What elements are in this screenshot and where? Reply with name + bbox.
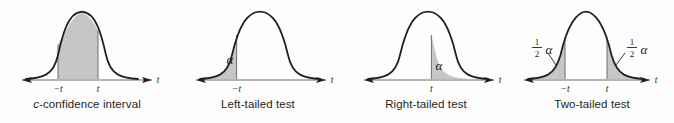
axis-label-t: t xyxy=(157,75,160,85)
panel-left-tailed-test: α −t t Left-tailed test xyxy=(174,0,342,123)
t-distribution-figure: −t t t c-confidence interval xyxy=(0,0,674,123)
area-label-alpha: α xyxy=(436,58,444,73)
half-alpha-symbol-left: α xyxy=(546,42,554,57)
area-label-alpha: α xyxy=(227,52,235,67)
panel-caption-left-tailed-test: Left-tailed test xyxy=(174,98,342,110)
half-alpha-numerator-left: 1 xyxy=(535,37,540,47)
caption-text: -confidence interval xyxy=(39,98,141,110)
panel-caption-two-tailed-test: Two-tailed test xyxy=(510,98,674,110)
axis-label-t: t xyxy=(655,75,658,85)
area-label-half-alpha-left: 1 2 α xyxy=(532,37,554,59)
bell-curve xyxy=(200,12,320,79)
panel-c-confidence-interval: −t t t c-confidence interval xyxy=(0,0,174,123)
tick-label-neg-t: −t xyxy=(53,84,62,94)
panel-caption-right-tailed-test: Right-tailed test xyxy=(342,98,510,110)
panel-row: −t t t c-confidence interval xyxy=(0,0,674,123)
axis-label-t: t xyxy=(331,75,334,85)
callout-leader-right xyxy=(616,53,625,65)
half-alpha-numerator-right: 1 xyxy=(630,37,635,47)
bell-curve xyxy=(368,12,488,79)
panel-right-tailed-test: α t t Right-tailed test xyxy=(342,0,510,123)
half-alpha-symbol-right: α xyxy=(641,42,649,57)
panel-caption-c-confidence-interval: c-confidence interval xyxy=(0,98,174,110)
panel-two-tailed-test: 1 2 α 1 2 α −t t t Two-tailed test xyxy=(510,0,674,123)
tick-label-pos-t: t xyxy=(430,84,433,94)
area-label-half-alpha-right: 1 2 α xyxy=(627,37,649,59)
tick-label-neg-t: −t xyxy=(232,84,241,94)
half-alpha-denominator-right: 2 xyxy=(630,49,635,59)
chart-right-tailed-test: α t t xyxy=(342,0,510,100)
axis-label-t: t xyxy=(499,75,502,85)
tick-label-pos-t: t xyxy=(606,84,609,94)
shaded-region-center xyxy=(58,12,98,80)
chart-left-tailed-test: α −t t xyxy=(174,0,342,100)
half-alpha-denominator-left: 2 xyxy=(535,49,540,59)
chart-two-tailed-test: 1 2 α 1 2 α −t t t xyxy=(510,0,674,100)
chart-c-confidence-interval: −t t t xyxy=(0,0,174,100)
tick-label-pos-t: t xyxy=(97,84,100,94)
tick-label-neg-t: −t xyxy=(560,84,569,94)
